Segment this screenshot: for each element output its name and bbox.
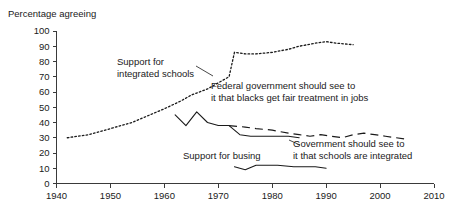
x-tick-label: 1950: [100, 190, 121, 201]
chart-container: Percentage agreeing 01020304050607080901…: [0, 0, 449, 214]
annotation-support-for-busing: Support for busing: [183, 150, 261, 161]
series-path-3: [234, 165, 326, 170]
annotation-federal-government-jobs: Federal government should see toit that …: [211, 80, 369, 103]
annotation-government-schools-integrated: Government should see toit that schools …: [293, 138, 412, 161]
chart-title: Percentage agreeing: [8, 8, 96, 19]
y-tick-label: 0: [44, 178, 49, 189]
annotation-support-integrated-schools: Support forintegrated schools: [117, 56, 194, 79]
leader-integrated-schools: [196, 66, 213, 76]
y-axis-ticks: 0102030405060708090100: [34, 25, 57, 189]
line-chart: Percentage agreeing 01020304050607080901…: [0, 0, 449, 214]
x-tick-label: 1970: [208, 190, 229, 201]
y-tick-label: 80: [39, 56, 50, 67]
y-tick-label: 30: [39, 132, 50, 143]
x-tick-label: 1960: [154, 190, 175, 201]
y-tick-label: 70: [39, 71, 50, 82]
series-path-2: [175, 112, 299, 138]
y-tick-label: 10: [39, 163, 50, 174]
leader-lines: [196, 66, 300, 145]
x-axis-ticks: 19401950196019701980199020002010: [46, 184, 445, 201]
x-tick-label: 2010: [423, 190, 444, 201]
x-axis: 19401950196019701980199020002010: [46, 184, 445, 201]
y-tick-label: 40: [39, 117, 50, 128]
x-tick-label: 1940: [46, 190, 67, 201]
x-tick-label: 1990: [316, 190, 337, 201]
y-axis: 0102030405060708090100: [34, 25, 57, 189]
y-tick-label: 100: [34, 25, 50, 36]
x-tick-label: 1980: [262, 190, 283, 201]
y-tick-label: 20: [39, 147, 50, 158]
x-tick-label: 2000: [370, 190, 391, 201]
annotations-group: Support forintegrated schoolsFederal gov…: [117, 56, 412, 161]
y-tick-label: 90: [39, 41, 50, 52]
y-tick-label: 50: [39, 102, 50, 113]
y-tick-label: 60: [39, 86, 50, 97]
